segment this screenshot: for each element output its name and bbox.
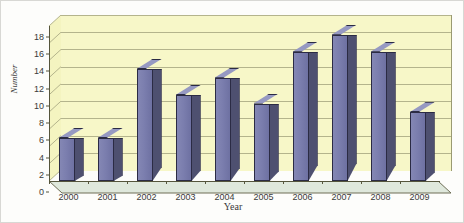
- y-axis-line: [49, 26, 50, 182]
- bar-front-face: [215, 78, 231, 181]
- bar: [371, 52, 387, 181]
- bar-front-face: [176, 95, 192, 181]
- y-axis-tick-label: 4: [39, 153, 44, 163]
- bar: [176, 95, 192, 181]
- bar-side-face: [75, 138, 84, 181]
- x-axis-tick-mark: [88, 181, 89, 184]
- y-axis-tick-mark: [46, 88, 49, 89]
- x-axis-tick-mark: [322, 181, 323, 184]
- x-axis-tick-mark: [244, 181, 245, 184]
- x-axis-title: Year: [1, 201, 464, 212]
- bar: [410, 112, 426, 181]
- y-axis-tick-label: 12: [34, 84, 44, 94]
- y-axis-tick-label: 2: [39, 170, 44, 180]
- bar-side-face: [231, 78, 240, 181]
- y-axis-tick-mark: [46, 123, 49, 124]
- plot-area: 024681012141618 200020012002200320042005…: [49, 26, 439, 181]
- x-axis-tick-mark: [400, 181, 401, 184]
- y-axis-tick-mark: [46, 174, 49, 175]
- bar: [137, 69, 153, 181]
- bar-side-face: [309, 52, 318, 181]
- gridline: [61, 32, 451, 33]
- bar: [254, 104, 270, 182]
- bar-side-face: [192, 95, 201, 181]
- bar-front-face: [254, 104, 270, 182]
- bar: [293, 52, 309, 181]
- x-axis-tick-mark: [205, 181, 206, 184]
- y-axis-tick-mark: [46, 71, 49, 72]
- bar-side-face: [426, 112, 435, 181]
- bar-front-face: [98, 138, 114, 181]
- bar: [59, 138, 75, 181]
- bar-front-face: [137, 69, 153, 181]
- bar-front-face: [59, 138, 75, 181]
- x-axis-tick-mark: [361, 181, 362, 184]
- bar-side-face: [387, 52, 396, 181]
- y-axis-tick-mark: [46, 54, 49, 55]
- bar-side-face: [114, 138, 123, 181]
- y-axis-tick-label: 18: [34, 32, 44, 42]
- x-axis-tick-mark: [166, 181, 167, 184]
- bar: [332, 35, 348, 181]
- y-axis-tick-mark: [46, 37, 49, 38]
- bar-side-face: [348, 35, 357, 181]
- y-axis-tick-label: 10: [34, 101, 44, 111]
- bar-front-face: [410, 112, 426, 181]
- y-axis-tick-label: 16: [34, 49, 44, 59]
- x-axis-tick-mark: [283, 181, 284, 184]
- y-axis-tick-mark: [46, 157, 49, 158]
- chart-figure: 024681012141618 200020012002200320042005…: [0, 0, 464, 223]
- bar-front-face: [293, 52, 309, 181]
- x-axis-tick-mark: [127, 181, 128, 184]
- y-axis-tick-label: 14: [34, 66, 44, 76]
- bar-side-face: [270, 104, 279, 182]
- gridline: [61, 49, 451, 50]
- y-axis-tick-label: 6: [39, 135, 44, 145]
- bar-side-face: [153, 69, 162, 181]
- y-axis-tick-label: 8: [39, 118, 44, 128]
- bar: [215, 78, 231, 181]
- y-axis-tick-mark: [46, 105, 49, 106]
- y-axis-tick-label: 0: [39, 187, 44, 197]
- gridline: [61, 15, 451, 16]
- bar-front-face: [371, 52, 387, 181]
- y-axis-tick-mark: [46, 140, 49, 141]
- bar: [98, 138, 114, 181]
- bar-front-face: [332, 35, 348, 181]
- y-axis-title: Number: [9, 65, 19, 94]
- x-axis-tick-mark: [49, 181, 50, 184]
